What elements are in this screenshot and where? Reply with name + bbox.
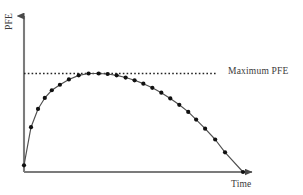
x-axis-label: Time <box>231 179 252 189</box>
data-point-marker <box>77 73 81 77</box>
data-point-marker <box>22 163 26 167</box>
data-point-marker <box>29 125 33 129</box>
y-axis-label: PFE <box>4 13 14 30</box>
data-point-marker <box>106 72 110 76</box>
data-point-marker <box>223 150 227 154</box>
data-point-marker <box>194 118 198 122</box>
data-point-marker <box>150 86 154 90</box>
pfe-curve-line <box>24 74 243 173</box>
data-point-marker <box>36 107 40 111</box>
data-point-marker <box>168 96 172 100</box>
data-point-marker <box>159 91 163 95</box>
data-point-marker <box>43 96 47 100</box>
data-point-marker <box>97 71 101 75</box>
data-point-marker <box>67 77 71 81</box>
pfe-curve-group <box>22 71 245 174</box>
chart-canvas <box>0 0 303 195</box>
data-point-marker <box>177 103 181 107</box>
pfe-data-markers <box>22 71 245 174</box>
pfe-profile-figure: PFE Time Maximum PFE <box>0 0 303 195</box>
data-point-marker <box>58 83 62 87</box>
data-point-marker <box>124 75 128 79</box>
data-point-marker <box>141 82 145 86</box>
data-point-marker <box>50 88 54 92</box>
data-point-marker <box>115 73 119 77</box>
data-point-marker <box>186 110 190 114</box>
data-point-marker <box>87 71 91 75</box>
data-point-marker <box>213 137 217 141</box>
data-point-marker <box>241 170 245 174</box>
axes-group <box>24 16 252 172</box>
data-point-marker <box>132 78 136 82</box>
data-point-marker <box>203 127 207 131</box>
maximum-pfe-annotation-label: Maximum PFE <box>228 66 289 76</box>
